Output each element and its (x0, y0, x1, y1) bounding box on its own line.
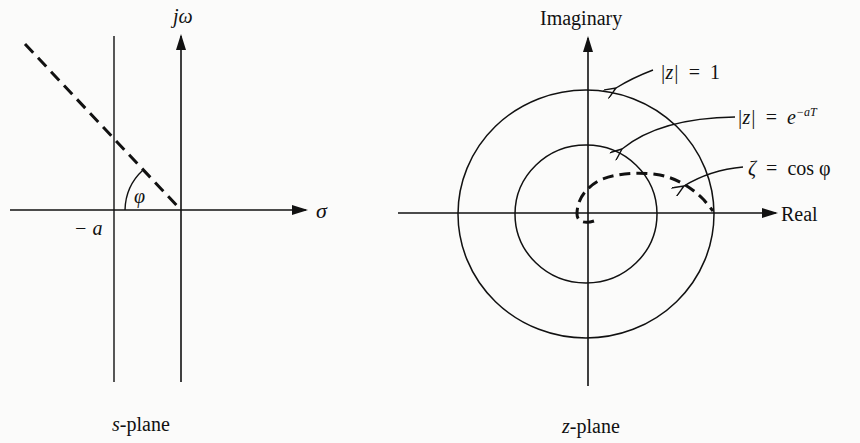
z-plane-caption: z-plane (562, 416, 620, 436)
annotation-lhs: |z| (737, 106, 756, 128)
phi-label: φ (134, 186, 145, 206)
sigma-label: σ (316, 200, 327, 222)
diagram-canvas (0, 0, 860, 443)
s-plane-caption-text: -plane (120, 413, 170, 435)
s-plane (10, 36, 306, 382)
unit-circle-annotation: |z| = 1 (660, 62, 720, 82)
annotation-lhs: |z| (660, 61, 679, 83)
annotation-rhs-exponent: −aT (796, 105, 817, 119)
z-plane-caption-var: z (562, 415, 570, 437)
constant-damping-ray (25, 44, 181, 210)
leader-spiral (684, 167, 743, 186)
inner-circle-annotation: |z| = e−aT (737, 106, 817, 127)
annotation-rhs: 1 (710, 61, 720, 83)
z-plane (398, 38, 776, 386)
jomega-label: jω (173, 6, 193, 26)
z-plane-caption-text: -plane (570, 415, 620, 437)
annotation-lhs: ζ (748, 157, 756, 179)
annotation-rhs-base: e (787, 106, 796, 128)
annotation-eq: = (689, 61, 700, 83)
imaginary-label: Imaginary (540, 8, 622, 28)
minus-a-label: − a (74, 218, 103, 238)
annotation-eq: = (766, 106, 777, 128)
real-label: Real (781, 204, 818, 224)
unit-circle (458, 90, 714, 338)
annotation-rhs: cos φ (787, 157, 830, 179)
inner-circle (515, 145, 657, 283)
s-plane-caption: s-plane (112, 414, 170, 434)
damping-annotation: ζ = cos φ (748, 158, 831, 178)
annotation-eq: = (766, 157, 777, 179)
leader-inner-circle (622, 117, 735, 149)
leader-unit-circle (616, 70, 653, 88)
s-plane-caption-var: s (112, 413, 120, 435)
